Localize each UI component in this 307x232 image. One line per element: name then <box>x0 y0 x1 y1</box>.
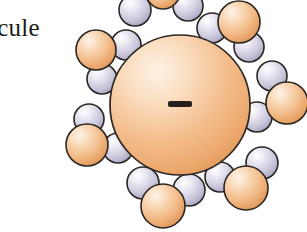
solvation-diagram: ecule <box>0 0 307 232</box>
hydrogen-atom <box>119 0 151 26</box>
water-molecule-top <box>119 0 203 26</box>
water-molecule-bottom <box>127 167 205 228</box>
oxygen-atom <box>224 166 268 210</box>
negative-charge-icon <box>168 101 192 107</box>
oxygen-atom <box>218 1 260 43</box>
oxygen-atom <box>76 30 116 70</box>
water-molecule-right <box>242 61 307 132</box>
central-anion <box>110 35 250 175</box>
diagram-canvas <box>0 0 307 232</box>
hydrogen-atom <box>173 0 203 21</box>
oxygen-atom <box>141 184 185 228</box>
caption-text: ecule <box>0 14 40 42</box>
oxygen-atom <box>266 82 307 124</box>
oxygen-atom <box>66 124 108 166</box>
